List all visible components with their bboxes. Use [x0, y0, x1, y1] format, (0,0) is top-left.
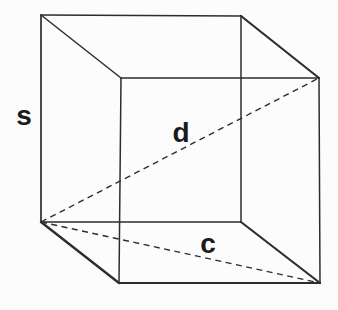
edge-front-top — [41, 15, 241, 16]
label-side-s: s — [16, 100, 32, 131]
label-diagonal-c: c — [200, 228, 216, 259]
edge-bottom-left-connector — [41, 222, 119, 283]
space-diagonal — [41, 78, 319, 222]
edge-back-right — [319, 78, 320, 283]
bottom-face-diagonal — [41, 222, 320, 283]
edge-top-right-connector — [241, 16, 319, 78]
cube-diagram-svg: sdc — [0, 0, 338, 310]
label-diagonal-d: d — [172, 117, 189, 148]
edge-top-left-connector — [41, 15, 121, 78]
cube-figure: sdc — [0, 0, 338, 310]
